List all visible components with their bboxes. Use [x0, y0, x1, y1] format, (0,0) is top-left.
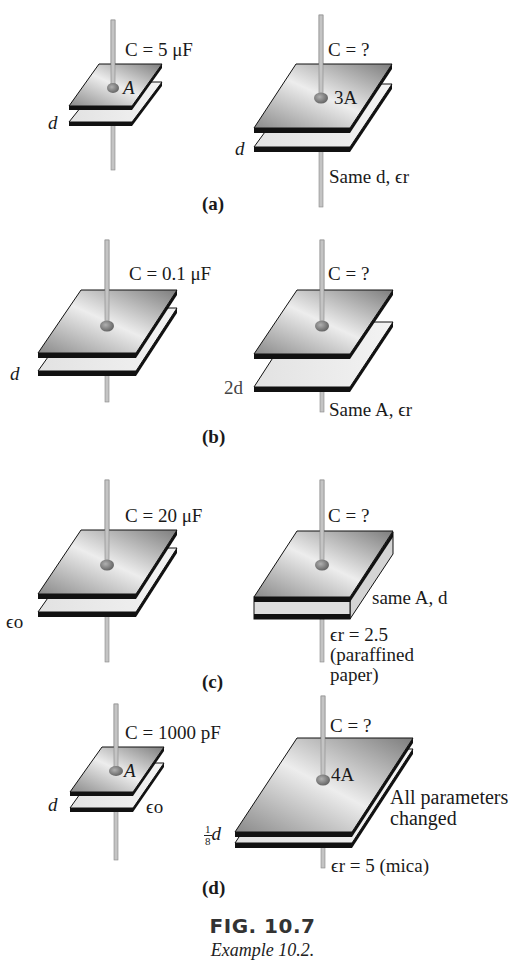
panel-label-b: (b)	[202, 427, 225, 446]
dielectric-label-c-unknown: ϵr = 2.5	[330, 625, 388, 644]
area-label-a-given: A	[123, 78, 135, 97]
capacitance-label-c-unknown: C = ?	[328, 506, 369, 525]
distance-label-b-given: d	[10, 364, 20, 383]
area-label-d-unknown: 4A	[331, 765, 354, 784]
permittivity-label-d-given: ϵo	[146, 797, 163, 816]
capacitance-label-d-given: C = 1000 pF	[125, 723, 221, 742]
note-label-d-line1: All parameters	[390, 787, 508, 807]
capacitance-label-d-unknown: C = ?	[330, 716, 371, 735]
figure-subtitle: Example 10.2.	[0, 940, 525, 961]
area-label-d-given: A	[124, 761, 136, 780]
capacitance-label-b-given: C = 0.1 μF	[129, 264, 211, 283]
distance-label-d-given: d	[48, 795, 58, 814]
dielectric-label-d-unknown: ϵr = 5 (mica)	[331, 856, 429, 875]
note-label-d-line2: changed	[390, 808, 457, 828]
panel-label-c: (c)	[202, 672, 223, 691]
capacitor-b-unknown	[254, 240, 393, 412]
note-label-a-unknown: Same d, ϵr	[329, 167, 409, 186]
distance-label-b-unknown: 2d	[224, 378, 243, 397]
area-label-a-unknown: 3A	[334, 88, 357, 107]
distance-label-a-unknown: d	[235, 139, 245, 158]
capacitance-label-c-given: C = 20 μF	[125, 506, 202, 525]
note-label-b-unknown: Same A, ϵr	[329, 400, 412, 419]
distance-label-a-given: d	[48, 113, 58, 132]
capacitance-label-a-given: C = 5 μF	[125, 40, 193, 59]
panel-label-a: (a)	[202, 194, 224, 213]
capacitance-label-b-unknown: C = ?	[328, 264, 369, 283]
note-label-c-unknown: same A, d	[372, 588, 447, 607]
permittivity-label-c-given: ϵo	[6, 612, 23, 631]
capacitor-d-unknown	[235, 696, 413, 868]
panel-label-d: (d)	[202, 878, 225, 897]
fraction-one-eighth: 18	[204, 824, 212, 847]
material-label-c-line1: (paraffined	[330, 645, 414, 664]
material-label-c-line2: paper)	[330, 665, 379, 684]
capacitance-label-a-unknown: C = ?	[328, 40, 369, 59]
figure-title: FIG. 10.7	[0, 914, 525, 938]
distance-label-d-unknown: 18d	[204, 824, 221, 847]
